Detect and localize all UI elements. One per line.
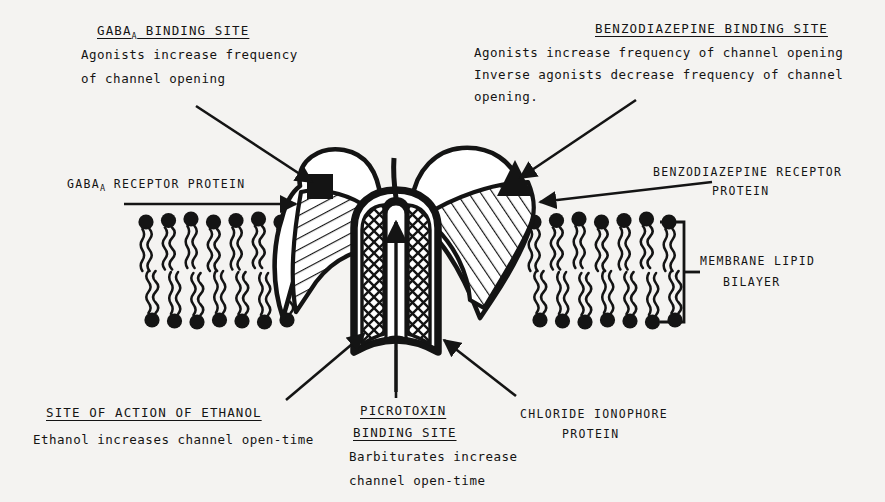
lipid-tail bbox=[260, 226, 265, 268]
lipid-tail bbox=[534, 271, 538, 313]
gaba-receptor-protein-label: GABAA RECEPTOR PROTEIN bbox=[67, 178, 245, 193]
phospholipid bbox=[144, 271, 159, 328]
lipid-tail bbox=[624, 272, 628, 314]
lipid-head-icon bbox=[189, 314, 204, 329]
lipid-tail bbox=[596, 229, 600, 271]
lipid-head-icon bbox=[600, 312, 615, 327]
lipid-tail bbox=[648, 226, 653, 268]
lipid-row-left-lower bbox=[144, 271, 294, 330]
phospholipid bbox=[639, 211, 654, 268]
lipid-tail bbox=[191, 273, 195, 315]
lipid-head-icon bbox=[212, 312, 227, 327]
lipid-tail bbox=[564, 272, 568, 314]
phospholipid bbox=[183, 211, 198, 268]
ethanol-site-line1: Ethanol increases channel open-time bbox=[33, 433, 314, 446]
lipid-head-icon bbox=[622, 313, 637, 328]
lipid-tail bbox=[153, 271, 158, 313]
lipid-tail bbox=[266, 273, 270, 315]
lipid-tail bbox=[214, 271, 217, 313]
lipid-tail bbox=[647, 273, 650, 315]
lipid-tail bbox=[169, 272, 172, 314]
lipid-head-icon bbox=[571, 211, 586, 226]
lipid-tail bbox=[221, 271, 225, 313]
ionophore-wall-right bbox=[408, 205, 430, 344]
lipid-head-icon bbox=[161, 213, 176, 228]
benzodiazepine-receptor-protein-line2: PROTEIN bbox=[712, 185, 770, 197]
lipid-head-icon bbox=[616, 213, 631, 228]
gaba-binding-site-line1: Agonists increase frequency bbox=[81, 48, 298, 61]
lipid-tail bbox=[208, 229, 212, 271]
leader-gaba-binding-site bbox=[196, 106, 312, 182]
phospholipid bbox=[571, 211, 586, 268]
lipid-head-icon bbox=[594, 214, 609, 229]
chloride-ionophore-protein-line2: PROTEIN bbox=[562, 428, 620, 440]
lipid-row-left-upper bbox=[138, 211, 288, 271]
gaba-binding-site-heading: GABAA BINDING SITE bbox=[97, 24, 249, 40]
lipid-tail bbox=[163, 228, 167, 270]
benzodiazepine-binding-site-heading: BENZODIAZEPINE BINDING SITE bbox=[595, 22, 828, 35]
lipid-tail bbox=[215, 229, 220, 271]
benzodiazepine-binding-site-line2: Inverse agonists decrease frequency of c… bbox=[474, 68, 843, 81]
lipid-head-icon bbox=[234, 313, 249, 328]
phospholipid bbox=[616, 213, 631, 270]
picrotoxin-line2: channel open-time bbox=[349, 474, 485, 487]
phospholipid bbox=[234, 272, 249, 329]
lipid-tail bbox=[670, 229, 674, 271]
phospholipid bbox=[622, 272, 637, 329]
phospholipid bbox=[549, 213, 564, 270]
phospholipid bbox=[645, 273, 660, 330]
phospholipid bbox=[532, 271, 547, 328]
lipid-tail bbox=[253, 226, 257, 268]
lipid-tail bbox=[609, 271, 613, 313]
gaba-binding-site-marker bbox=[307, 174, 333, 199]
lipid-tail bbox=[231, 228, 234, 270]
leader-ethanol-site bbox=[286, 334, 364, 400]
phospholipid bbox=[555, 272, 570, 329]
ethanol-site-heading: SITE OF ACTION OF ETHANOL bbox=[46, 406, 262, 419]
lipid-tail bbox=[147, 229, 151, 271]
lipid-tail bbox=[664, 229, 667, 271]
benzodiazepine-binding-site-line3: opening. bbox=[474, 90, 538, 103]
phospholipid bbox=[667, 271, 682, 328]
picrotoxin-heading-line2: BINDING SITE bbox=[353, 426, 457, 439]
lipid-head-icon bbox=[532, 312, 547, 327]
membrane-lipid-bilayer-line1: MEMBRANE LIPID bbox=[700, 255, 815, 267]
lipid-head-icon bbox=[144, 312, 159, 327]
lipid-head-icon bbox=[167, 313, 182, 328]
lipid-head-icon bbox=[549, 213, 564, 228]
lipid-tail bbox=[198, 273, 203, 315]
lipid-tail bbox=[192, 226, 196, 268]
lipid-tail bbox=[237, 228, 241, 270]
lipid-tail bbox=[654, 273, 658, 315]
lipid-head-icon bbox=[251, 211, 266, 226]
gaba-binding-site-line2: of channel opening bbox=[81, 72, 225, 85]
lipid-tail bbox=[551, 228, 555, 270]
phospholipid bbox=[161, 213, 176, 270]
lipid-tail bbox=[146, 271, 150, 313]
lipid-head-icon bbox=[183, 211, 198, 226]
ionophore-stalk bbox=[394, 158, 396, 198]
lipid-tail bbox=[631, 272, 636, 314]
figure-canvas: GABAA BINDING SITE Agonists increase fre… bbox=[0, 0, 885, 502]
lipid-head-icon bbox=[639, 211, 654, 226]
lipid-tail bbox=[176, 272, 180, 314]
lipid-tail bbox=[669, 271, 673, 313]
ionophore-wall-left bbox=[362, 205, 384, 344]
phospholipid bbox=[600, 271, 615, 328]
lipid-head-icon bbox=[228, 213, 243, 228]
lipid-tail bbox=[579, 273, 583, 315]
lipid-tail bbox=[243, 272, 248, 314]
phospholipid bbox=[594, 214, 609, 271]
lipid-tail bbox=[236, 272, 240, 314]
phospholipid bbox=[257, 273, 272, 330]
phospholipid bbox=[138, 214, 153, 271]
lipid-tail bbox=[586, 273, 591, 315]
lipid-tail bbox=[625, 228, 629, 270]
lipid-head-icon bbox=[257, 314, 272, 329]
lipid-tail bbox=[558, 228, 563, 270]
phospholipid bbox=[228, 213, 243, 270]
benzodiazepine-receptor-protein-line1: BENZODIAZEPINE RECEPTOR bbox=[653, 166, 842, 178]
lipid-head-icon bbox=[667, 312, 682, 327]
lipid-tail bbox=[170, 228, 175, 270]
chloride-ionophore-protein-line1: CHLORIDE IONOPHORE bbox=[520, 408, 668, 420]
